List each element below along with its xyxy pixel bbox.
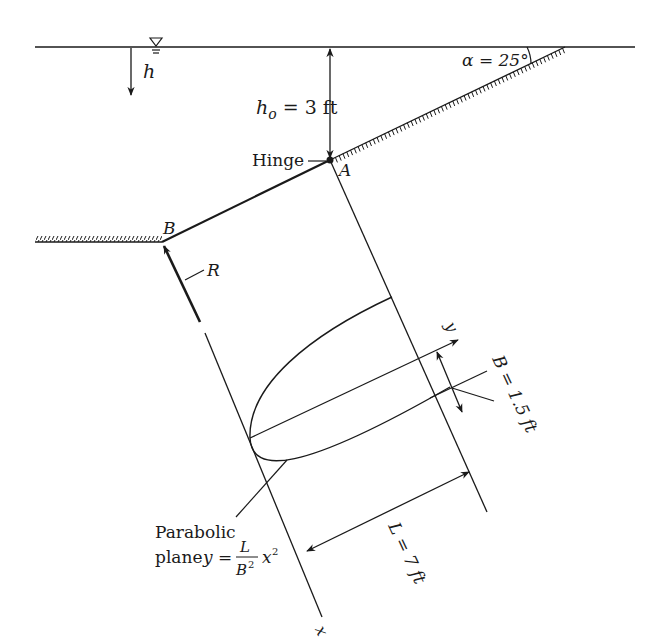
parabola-equation: y = L B 2 x 2 — [202, 538, 278, 579]
parabolic-plane-label-line1: Parabolic — [155, 522, 236, 542]
svg-text:x: x — [262, 547, 272, 567]
x-axis-line — [205, 333, 322, 617]
hinge-label: Hinge — [252, 150, 304, 170]
y-axis-line — [250, 340, 458, 438]
alpha-angle-label: α = 25° — [462, 50, 529, 70]
l-dimension-arrow — [307, 472, 469, 551]
reaction-r-label: R — [206, 260, 220, 280]
diagram-canvas: h α = 25° ho = 3 ft Hinge A B R x y B = … — [0, 0, 660, 642]
inclined-bottom-hatching — [335, 48, 564, 162]
depth-h-label: h — [143, 60, 155, 82]
parabola-curve — [250, 297, 450, 461]
b-dimension-extension — [430, 371, 487, 398]
point-a-label: A — [337, 160, 351, 180]
svg-text:2: 2 — [248, 559, 254, 570]
svg-text:B: B — [235, 561, 247, 579]
svg-text:=: = — [218, 547, 232, 567]
x-axis-label: x — [311, 623, 332, 639]
parabolic-plane-label-line2: plane — [155, 547, 202, 567]
b-dimension-label: B = 1.5 ft — [488, 351, 542, 436]
reaction-r-arrow — [164, 246, 200, 322]
b-dimension-arrow — [437, 352, 462, 412]
reaction-r-leader — [185, 270, 204, 280]
l-dimension-label: L = 7 ft — [384, 518, 430, 587]
point-b-label: B — [162, 218, 176, 238]
ground-hatching — [35, 236, 162, 242]
gate-ab-line — [162, 160, 330, 242]
svg-text:2: 2 — [272, 546, 278, 557]
y-axis-label: y — [441, 318, 463, 336]
ho-dimension-label: ho = 3 ft — [256, 96, 338, 122]
svg-text:y: y — [202, 547, 213, 567]
svg-text:L: L — [239, 538, 250, 556]
gate-right-edge-line — [330, 160, 487, 512]
b-dimension-leader — [452, 388, 494, 401]
water-level-symbol-icon — [150, 38, 162, 53]
